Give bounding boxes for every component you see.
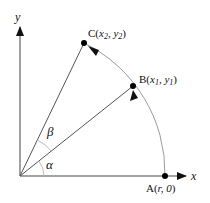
y-axis-label: y — [14, 10, 21, 24]
label-point-c: C(x2, y2) — [88, 27, 126, 41]
point-a — [162, 173, 168, 179]
label-point-a: A(r, 0) — [146, 182, 176, 195]
rotation-arc — [84, 43, 165, 176]
rotation-diagram: y x C(x2, y2) B(x1, y1) A(r, 0) β α — [0, 0, 210, 203]
x-axis-label: x — [190, 169, 197, 183]
arc-arrow-a-to-b-icon — [130, 90, 138, 101]
arc-arrow-b-to-c-icon — [88, 46, 99, 56]
point-c — [81, 40, 87, 46]
ray-ob — [20, 86, 133, 176]
angle-arc-alpha — [39, 161, 44, 176]
point-b — [130, 83, 136, 89]
diagram-canvas: y x C(x2, y2) B(x1, y1) A(r, 0) β α — [0, 0, 210, 203]
label-point-b: B(x1, y1) — [139, 73, 177, 87]
angle-beta-label: β — [46, 124, 54, 139]
angle-alpha-label: α — [46, 157, 54, 172]
angle-arc-beta — [37, 140, 51, 151]
